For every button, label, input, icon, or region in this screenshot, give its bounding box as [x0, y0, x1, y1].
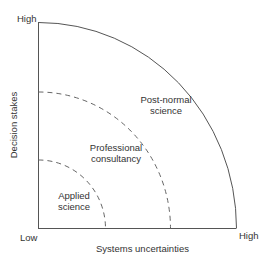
zone-label-line: science — [49, 201, 99, 212]
zone-label-professional-consultancy: Professional consultancy — [76, 142, 156, 164]
x-axis-high-label: High — [239, 230, 259, 241]
x-axis-low-label: Low — [20, 232, 37, 243]
zone-label-line: consultancy — [76, 153, 156, 164]
zone-label-applied-science: Applied science — [49, 190, 99, 212]
zone-label-line: Applied — [49, 190, 99, 201]
zone-label-line: science — [126, 105, 206, 116]
zone-label-line: Post-normal — [126, 94, 206, 105]
zone-label-line: Professional — [76, 142, 156, 153]
diagram-canvas — [0, 0, 273, 265]
x-axis-title: Systems uncertainties — [96, 243, 189, 254]
y-axis-title: Decision stakes — [8, 92, 19, 159]
y-axis-high-label: High — [17, 13, 37, 24]
zone-label-post-normal-science: Post-normal science — [126, 94, 206, 116]
